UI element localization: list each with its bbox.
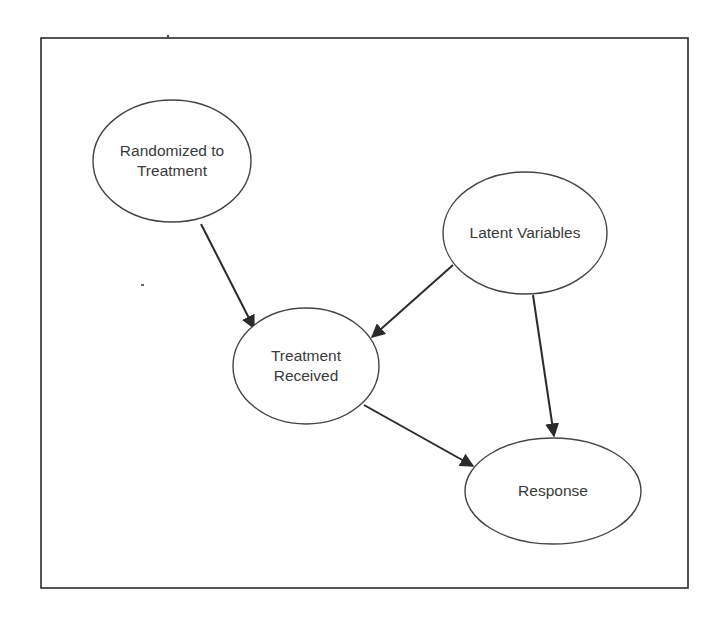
scan-dot <box>167 35 169 38</box>
arrow-randomized-to-treatment_received <box>201 224 254 328</box>
nodes <box>93 100 641 544</box>
node-response <box>465 438 641 544</box>
node-treatment_received <box>233 308 379 424</box>
node-randomized <box>93 100 251 222</box>
node-latent <box>443 172 607 294</box>
causal-diagram <box>0 0 715 617</box>
arrow-treatment_received-to-response <box>364 405 473 466</box>
arrow-latent-to-response <box>533 295 554 436</box>
scan-dot <box>141 284 144 286</box>
arrow-latent-to-treatment_received <box>372 265 453 337</box>
